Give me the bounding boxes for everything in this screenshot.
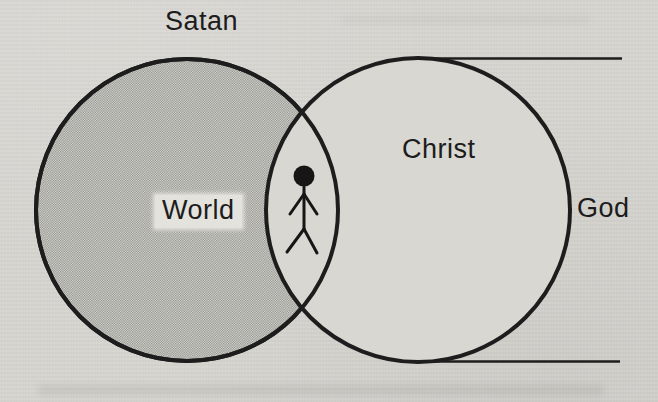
christ-label: Christ: [402, 136, 476, 163]
scanned-page: Satan World Christ God: [0, 0, 658, 402]
satan-label: Satan: [165, 8, 238, 35]
christ-circle: [266, 58, 570, 362]
stick-figure-head: [294, 166, 315, 187]
world-label: World: [155, 195, 242, 228]
venn-diagram: [0, 0, 658, 402]
god-label: God: [577, 195, 630, 222]
